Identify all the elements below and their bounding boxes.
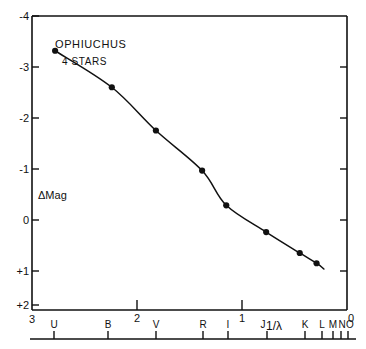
y-tick-label-1: -3 [19,61,29,73]
right-axis-ticks [340,67,347,271]
x-axis-band-labels: U B V R I J K L M N O [50,319,354,330]
data-point-markers [52,48,320,267]
y-tick-label-3: -1 [19,163,29,175]
chart-title: OPHIUCHUS [55,38,126,50]
y-tick-label-5: +1 [16,265,29,277]
data-point-J [263,229,269,235]
band-label-R: R [199,319,206,330]
data-point-K [297,250,303,256]
data-point-B [109,84,115,90]
data-point-V [153,127,159,133]
data-point-L [313,260,319,266]
data-point-I [223,202,229,208]
band-label-B: B [105,319,112,330]
x-axis-label: 1/λ [266,319,282,333]
x-axis-primary [32,300,347,310]
band-label-U: U [50,319,57,330]
band-label-N: N [338,319,345,330]
extinction-curve [55,51,324,269]
band-label-I: I [227,319,230,330]
data-point-R [199,167,205,173]
y-tick-label-0: -4 [19,10,29,22]
band-label-M: M [329,319,337,330]
y-axis-label: ΔMag [38,189,67,201]
x-tick-label-3: 3 [29,313,35,325]
x-axis-band-scale [30,331,356,339]
chart-figure-root: -4 -3 -2 -1 0 +1 +2 ΔMag OPHIUCHUS 4 STA… [0,0,366,349]
x-tick-label-1: 1 [239,312,245,324]
chart-subtitle: 4 STARS [62,56,107,67]
y-axis-tick-labels: -4 -3 -2 -1 0 +1 +2 [16,10,29,311]
band-label-L: L [319,319,325,330]
y-tick-label-2: -2 [19,112,29,124]
y-tick-label-4: 0 [23,214,29,226]
y-axis-ticks [32,16,39,305]
band-label-K: K [302,319,309,330]
data-point-U [52,48,58,54]
y-tick-label-6: +2 [16,299,29,311]
band-label-V: V [153,319,160,330]
band-label-J: J [261,319,266,330]
x-tick-label-2: 2 [134,312,140,324]
band-label-O: O [346,319,354,330]
chart-svg: -4 -3 -2 -1 0 +1 +2 ΔMag OPHIUCHUS 4 STA… [0,0,366,349]
